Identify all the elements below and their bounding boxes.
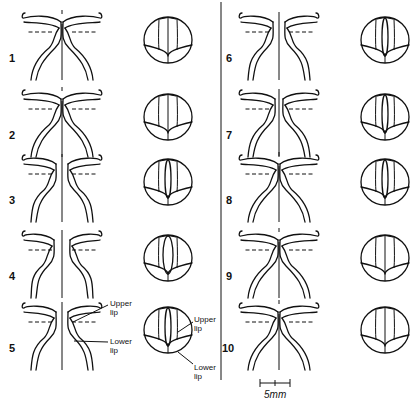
front-view-sphere [361, 17, 409, 63]
side-view-mouth [22, 230, 102, 298]
panel-number: 5 [9, 342, 15, 354]
svg-text:Upper: Upper [194, 315, 216, 324]
panel-5: 5 [9, 302, 192, 370]
annotation-lower-lip-front: Lower lip [178, 352, 216, 381]
side-view-mouth [22, 302, 102, 370]
side-view-mouth [22, 87, 102, 157]
panel-number: 8 [226, 194, 232, 206]
panel-number: 4 [9, 270, 16, 282]
panel-2: 2 [9, 87, 192, 157]
mouth-stages-figure: 12345678910 5mm Upper lip Lower lip Uppe… [0, 0, 420, 401]
svg-text:lip: lip [110, 308, 119, 317]
panel-number: 10 [222, 342, 234, 354]
scale-bar: 5mm [260, 379, 290, 400]
panel-6: 6 [226, 12, 409, 80]
annotation-upper-lip-side: Upper lip [73, 299, 132, 322]
panel-number: 2 [9, 129, 15, 141]
front-view-sphere [361, 94, 409, 140]
svg-text:lip: lip [110, 346, 119, 355]
side-view-mouth [239, 89, 319, 157]
annotation-upper-lip-front: Upper lip [178, 315, 216, 333]
svg-text:lip: lip [194, 372, 203, 381]
panel-9: 9 [226, 228, 409, 298]
svg-text:lip: lip [194, 324, 203, 333]
front-view-sphere [361, 307, 409, 353]
panel-8: 8 [226, 152, 409, 222]
panel-number: 9 [226, 270, 232, 282]
panel-number: 3 [9, 194, 15, 206]
svg-text:Upper: Upper [110, 299, 132, 308]
front-view-sphere [361, 235, 409, 281]
side-view-mouth [239, 300, 319, 370]
front-view-sphere [144, 94, 192, 140]
panel-number: 6 [226, 52, 232, 64]
side-view-mouth [239, 12, 319, 80]
front-view-sphere [144, 235, 192, 281]
side-view-mouth [239, 228, 319, 298]
panel-number: 1 [9, 52, 15, 64]
panel-10: 10 [222, 300, 409, 370]
panel-4: 4 [9, 230, 192, 298]
front-view-sphere [144, 159, 192, 205]
panel-3: 3 [9, 154, 192, 222]
panel-7: 7 [226, 89, 409, 157]
side-view-mouth [239, 152, 319, 222]
front-view-sphere [144, 307, 192, 353]
front-view-sphere [144, 17, 192, 63]
side-view-mouth [22, 10, 102, 80]
front-view-sphere [361, 159, 409, 205]
svg-text:Lower: Lower [194, 363, 216, 372]
svg-text:Lower: Lower [110, 337, 132, 346]
side-view-mouth [22, 154, 102, 222]
scale-bar-label: 5mm [264, 389, 286, 400]
panel-1: 1 [9, 10, 192, 80]
panel-number: 7 [226, 129, 232, 141]
